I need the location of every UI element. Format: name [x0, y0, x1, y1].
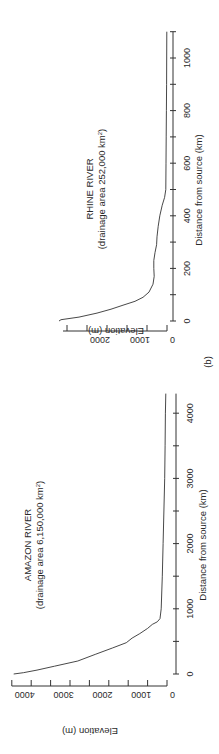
elevation-tick-label: 2000 — [92, 690, 112, 700]
elevation-tick-label: 0 — [170, 335, 175, 345]
elevation-tick-label: 4000 — [15, 690, 35, 700]
distance-tick-label: 600 — [182, 156, 192, 171]
distance-tick-label: 200 — [182, 261, 192, 276]
rhine-xlabel: Distance from source (km) — [193, 134, 204, 245]
river-profiles-figure: 010002000 02004006008001000 RHINE RIVER … — [0, 0, 219, 754]
rhine-distance-axis: 02004006008001000 — [170, 32, 192, 324]
distance-tick-label: 0 — [182, 318, 192, 323]
distance-tick-label: 400 — [182, 208, 192, 223]
figure-label: (b) — [202, 356, 213, 368]
rhine-subtitle: (drainage area 252,000 km2) — [96, 129, 107, 250]
distance-tick-label: 800 — [182, 103, 192, 118]
elevation-tick-label: 1000 — [131, 690, 151, 700]
rhine-profile-chart: 010002000 02004006008001000 RHINE RIVER … — [59, 32, 204, 345]
amazon-elevation-axis: 01000200030004000 — [12, 680, 175, 700]
amazon-distance-axis: 01000200030004000 — [173, 394, 195, 677]
amazon-ylabel: Elevation (m) — [62, 726, 118, 737]
elevation-tick-label: 0 — [170, 690, 175, 700]
distance-tick-label: 4000 — [185, 403, 195, 423]
rhine-ylabel: Elevation (m) — [88, 326, 144, 337]
amazon-title: AMAZON RIVER — [22, 509, 33, 581]
distance-tick-label: 1000 — [182, 48, 192, 68]
rhine-title: RHINE RIVER — [84, 158, 95, 219]
elevation-tick-label: 3000 — [54, 690, 74, 700]
distance-tick-label: 3000 — [185, 468, 195, 488]
amazon-subtitle: (drainage area 6,150,000 km2) — [34, 481, 45, 610]
distance-tick-label: 2000 — [185, 534, 195, 554]
distance-tick-label: 0 — [185, 671, 195, 676]
amazon-xlabel: Distance from source (km) — [197, 489, 208, 600]
rhine-profile-line — [59, 32, 167, 321]
distance-tick-label: 1000 — [185, 599, 195, 619]
amazon-profile-chart: 01000200030004000 01000200030004000 AMAZ… — [12, 394, 208, 737]
